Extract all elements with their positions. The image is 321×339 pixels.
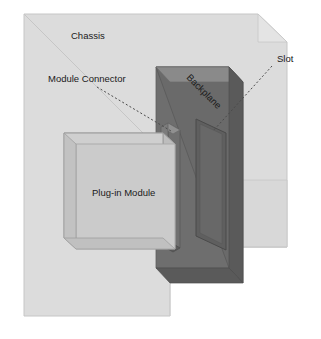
label-chassis: Chassis <box>71 30 105 41</box>
module-left-edge <box>64 133 76 249</box>
backplane-side-thickness <box>229 67 243 283</box>
technical-diagram: Chassis Module Connector Slot Plug-in Mo… <box>0 0 321 339</box>
label-slot: Slot <box>277 53 294 64</box>
slot-inner-recess <box>200 124 222 244</box>
label-plug-in-module: Plug-in Module <box>92 187 155 198</box>
diagram-canvas: Chassis Module Connector Slot Plug-in Mo… <box>0 0 321 339</box>
chassis-chamfer <box>258 14 287 42</box>
module-bottom-edge <box>64 238 175 249</box>
label-module-connector: Module Connector <box>48 73 126 84</box>
backplane-bottom-edge <box>156 268 243 283</box>
